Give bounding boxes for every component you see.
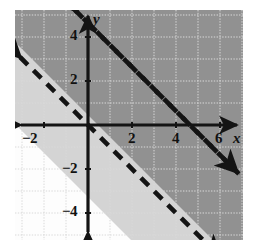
- y-tick-label-neg-four: −4: [62, 203, 77, 220]
- y-axis-name: y: [93, 11, 100, 28]
- inequality-graph-figure: −2 2 4 6 4 2 −2 −4 y x: [0, 0, 256, 246]
- x-tick-label-two: 2: [128, 130, 135, 147]
- x-tick-label-neg-two: −2: [22, 130, 37, 147]
- y-tick-label-neg-two: −2: [62, 160, 77, 177]
- x-tick-label-four: 4: [172, 130, 179, 147]
- x-tick-label-six: 6: [215, 130, 222, 147]
- x-axis-name: x: [233, 130, 241, 147]
- y-tick-label-four: 4: [70, 27, 77, 44]
- y-tick-label-two: 2: [70, 71, 77, 88]
- graph-canvas: [15, 10, 243, 240]
- plot-area: [15, 10, 243, 240]
